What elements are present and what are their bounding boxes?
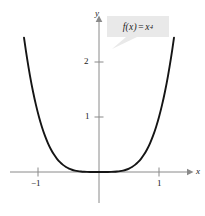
y-axis (96, 16, 103, 204)
x-axis-label: x (196, 167, 200, 176)
callout-tail (112, 37, 137, 49)
y-tick-label-1: 1 (85, 112, 90, 121)
y-axis-label: y (95, 9, 99, 18)
y-tick-label-2: 2 (84, 57, 89, 66)
function-callout-box (107, 16, 169, 37)
function-graph-figure: x y −1 1 1 2 f(x) = x4 (0, 0, 205, 216)
x-tick-label-neg1: −1 (31, 179, 41, 188)
x-tick-label-pos1: 1 (157, 179, 162, 188)
